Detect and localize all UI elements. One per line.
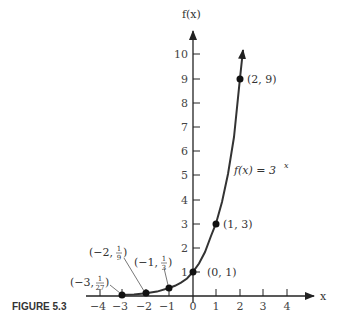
svg-text:x: x [284,161,289,170]
figure-caption: FIGURE 5.3 [12,301,67,312]
function-label: f(x) = 3 x [233,161,289,177]
svg-text:1: 1 [98,275,102,283]
svg-text:−2: −2 [136,300,152,313]
point-1 [213,221,220,228]
exponential-chart: x f(x) −4 −3 −2 −1 0 1 2 3 4 1 [0,0,340,329]
point-label-0: (0, 1) [207,266,237,279]
svg-text:(−2,: (−2, [89,246,113,259]
svg-text:7: 7 [181,121,188,134]
svg-text:3: 3 [181,218,188,231]
svg-text:2: 2 [181,242,188,255]
svg-text:): ) [168,256,172,269]
svg-text:2: 2 [237,300,244,313]
point-label-2: (2, 9) [247,73,277,86]
svg-text:9: 9 [181,73,188,86]
y-axis-label: f(x) [182,8,201,21]
point-neg1 [166,285,173,292]
x-tick-labels: −4 −3 −2 −1 0 1 2 3 4 [90,300,291,313]
point-label-neg1: (−1, 1 3 ) [134,255,172,272]
svg-text:27: 27 [96,284,105,292]
svg-text:−4: −4 [90,300,106,313]
point-2 [237,76,244,83]
point-0 [190,269,197,276]
point-label-1: (1, 3) [223,218,253,231]
point-label-neg3: (−3, 1 27 ) [70,275,109,292]
svg-text:4: 4 [284,300,291,313]
point-label-neg2: (−2, 1 9 ) [89,245,127,262]
svg-text:3: 3 [162,264,166,272]
svg-text:(−1,: (−1, [134,256,158,269]
svg-text:1: 1 [162,255,166,263]
svg-text:3: 3 [260,300,267,313]
svg-text:−1: −1 [159,300,175,313]
svg-text:f(x) = 3: f(x) = 3 [233,164,276,177]
svg-text:5: 5 [181,169,188,182]
svg-text:0: 0 [190,300,197,313]
svg-text:): ) [105,276,109,289]
svg-text:): ) [123,246,127,259]
svg-text:−3: −3 [112,300,128,313]
svg-text:1: 1 [181,266,188,279]
svg-text:6: 6 [181,145,188,158]
x-axis-label: x [320,290,327,303]
y-tick-labels: 1 2 3 4 5 6 7 8 9 10 [174,48,188,279]
svg-text:10: 10 [174,48,188,61]
svg-text:8: 8 [181,97,188,110]
figure: x f(x) −4 −3 −2 −1 0 1 2 3 4 1 [0,0,340,329]
svg-text:4: 4 [181,194,188,207]
svg-text:(−3,: (−3, [70,276,94,289]
svg-text:1: 1 [213,300,220,313]
svg-text:1: 1 [117,245,121,253]
y-ticks [193,54,200,272]
svg-text:9: 9 [117,254,121,262]
